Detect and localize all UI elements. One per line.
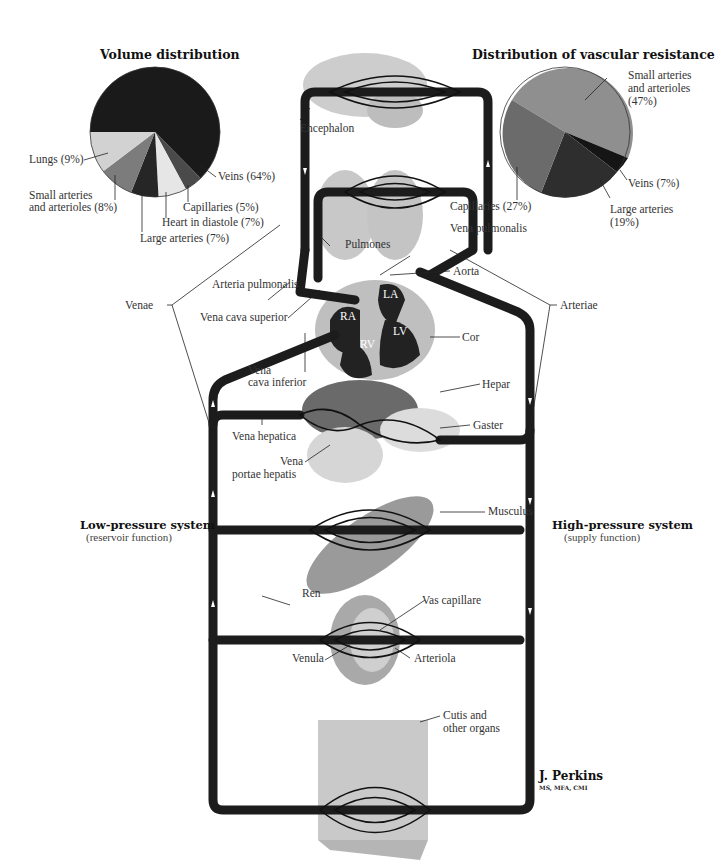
- resistance-label-small-arteries-2: and arterioles: [628, 82, 690, 95]
- resistance-label-small-arteries-3: (47%): [628, 95, 657, 108]
- low-pressure-subtitle: (reservoir function): [86, 531, 172, 543]
- low-pressure-title: Low-pressure system: [80, 518, 215, 532]
- volume-chart-title: Volume distribution: [100, 47, 240, 62]
- resistance-label-large-arteries: Large arteries: [610, 203, 673, 216]
- high-pressure-subtitle: (supply function): [564, 531, 640, 543]
- label-gaster: Gaster: [473, 419, 503, 432]
- resistance-label-large-arteries-2: (19%): [610, 216, 639, 229]
- volume-label-veins: Veins (64%): [218, 170, 275, 183]
- label-vena-cava-inferior-2: cava inferior: [248, 376, 306, 389]
- circulation-diagram: [0, 0, 728, 866]
- resistance-label-veins: Veins (7%): [628, 177, 679, 190]
- label-venula: Venula: [292, 652, 324, 665]
- label-vena-cava-superior: Vena cava superior: [200, 311, 288, 324]
- label-ren: Ren: [302, 587, 321, 600]
- resistance-label-small-arteries: Small arteries: [628, 69, 692, 82]
- label-encephalon: Encephalon: [300, 122, 354, 135]
- label-ra: RA: [340, 310, 356, 323]
- resistance-pie: [500, 67, 633, 200]
- label-aorta: Aorta: [453, 265, 479, 278]
- stomach-shape: [380, 408, 460, 452]
- resistance-chart-title: Distribution of vascular resistance: [472, 47, 715, 62]
- label-musculus: Musculus: [488, 505, 533, 518]
- volume-label-heart: Heart in diastole (7%): [162, 216, 264, 229]
- label-hepar: Hepar: [482, 378, 510, 391]
- volume-label-small-arteries-2: and arterioles (8%): [29, 201, 117, 214]
- label-vena-pulmonalis: Vena pulmonalis: [450, 222, 527, 235]
- label-arteria-pulmonalis: Arteria pulmonalis: [212, 278, 299, 291]
- label-lv: LV: [393, 325, 407, 338]
- label-pulmones: Pulmones: [345, 238, 390, 251]
- label-vena-portae-1: Vena: [280, 455, 303, 468]
- label-vena-portae-2: portae hepatis: [232, 468, 296, 481]
- label-vas-capillare: Vas capillare: [422, 594, 481, 607]
- label-arteriola: Arteriola: [414, 652, 456, 665]
- label-cutis-2: other organs: [443, 722, 500, 735]
- volume-label-lungs: Lungs (9%): [29, 153, 84, 166]
- artist-credentials: MS, MFA, CMI: [539, 784, 588, 791]
- label-rv: RV: [360, 338, 375, 351]
- high-pressure-title: High-pressure system: [552, 518, 693, 532]
- organ-shapes: [293, 53, 460, 860]
- label-venae: Venae: [125, 299, 153, 312]
- volume-label-large-arteries: Large arteries (7%): [140, 232, 229, 245]
- resistance-label-capillaries: Capillaries (27%): [450, 200, 531, 213]
- label-vena-hepatica: Vena hepatica: [232, 430, 296, 443]
- volume-label-capillaries: Capillaries (5%): [183, 201, 259, 214]
- label-la: LA: [383, 288, 398, 301]
- label-cutis-1: Cutis and: [443, 709, 487, 722]
- label-arteriae: Arteriae: [560, 299, 598, 312]
- artist-signature: J. Perkins: [539, 769, 603, 783]
- label-cor: Cor: [462, 331, 479, 344]
